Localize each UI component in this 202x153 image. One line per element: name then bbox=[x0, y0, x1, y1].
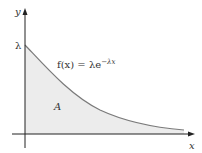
x-axis-label: x bbox=[189, 140, 195, 151]
x-axis-arrow-icon bbox=[188, 132, 195, 137]
y-axis-arrow-icon bbox=[23, 8, 28, 15]
area-label: A bbox=[53, 101, 61, 112]
function-label: f(x) = λe−λx bbox=[57, 58, 115, 70]
function-label-main: f(x) = λe bbox=[57, 59, 101, 70]
function-label-exponent: −λx bbox=[101, 58, 115, 66]
y-intercept-label: λ bbox=[15, 40, 22, 51]
y-axis-label: y bbox=[14, 6, 21, 17]
exponential-density-diagram: y x λ f(x) = λe−λx A bbox=[0, 0, 202, 153]
